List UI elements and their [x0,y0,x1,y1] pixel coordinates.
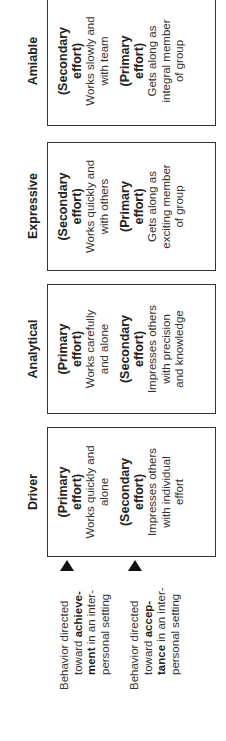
effort-description: Works quickly andwith others [84,147,111,266]
effort-description: Works carefullyand alone [84,289,111,409]
effort-description: Works slowly andwith team [84,1,111,121]
effort-label: (Secondaryeffort) [56,1,84,121]
box-driver: (Primaryeffort) Works quickly andalone (… [47,427,216,557]
effort-label: (Primaryeffort) [118,147,146,266]
triangle-marker-icon [128,560,142,571]
social-style-effort-table: Driver Analytical Expressive Amiable (Pr… [0,0,226,741]
row-label-achievement: Behavior directed toward achieve- ment i… [58,590,112,690]
row-label-acceptance: Behavior directed toward accep- tance in… [128,590,182,690]
effort-description: Works quickly andalone [84,432,111,552]
effort-description: Impresses otherswith individualeffort [146,432,187,552]
header-expressive: Expressive [26,141,44,271]
effort-label: (Primaryeffort) [56,432,84,552]
header-analytical: Analytical [26,284,44,414]
box-expressive: (Secondaryeffort) Works quickly andwith … [47,142,216,271]
effort-label: (Secondaryeffort) [118,432,146,552]
effort-description: Gets along asexciting memberof group [146,147,187,266]
header-amiable: Amiable [26,0,44,126]
effort-label: (Primaryeffort) [56,289,84,409]
header-driver: Driver [26,427,44,557]
box-analytical: (Primaryeffort) Works carefullyand alone… [47,284,216,414]
box-amiable: (Secondaryeffort) Works slowly andwith t… [47,0,216,126]
triangle-marker-icon [60,560,74,571]
effort-label: (Secondaryeffort) [118,289,146,409]
effort-label: (Primaryeffort) [118,1,146,121]
effort-label: (Secondaryeffort) [56,147,84,266]
effort-description: Impresses otherswith precisionand knowle… [146,289,187,409]
effort-description: Gets along asintegral memberof group [146,1,187,121]
